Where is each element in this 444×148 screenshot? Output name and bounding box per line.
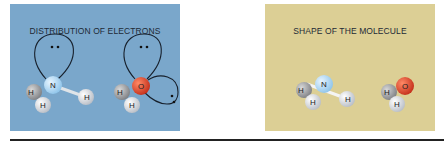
svg-text:H: H [384,88,390,97]
svg-text:H: H [40,101,46,110]
svg-text:N: N [321,80,327,89]
svg-text:H: H [394,100,400,109]
molecule-shape-panel: N H H H O H H SHAPE OF THE MOLECULE [265,4,435,131]
svg-text:H: H [117,88,123,97]
svg-text:H: H [345,95,351,104]
electron-distribution-diagram: N H H H O H H [10,4,180,131]
electron-distribution-panel: N H H H O H H DISTRIBUTION OF ELECTRONS [10,4,180,131]
svg-text:H: H [310,98,316,107]
divider-rule [10,139,444,141]
svg-text:N: N [50,81,56,90]
svg-text:O: O [402,82,408,91]
panel-title: DISTRIBUTION OF ELECTRONS [10,26,180,36]
svg-text:H: H [298,86,304,95]
svg-text:O: O [138,82,144,91]
panel-title: SHAPE OF THE MOLECULE [265,26,435,36]
molecule-shape-diagram: N H H H O H H [265,4,435,131]
svg-text:H: H [84,93,90,102]
svg-text:H: H [28,88,34,97]
svg-text:H: H [129,101,135,110]
